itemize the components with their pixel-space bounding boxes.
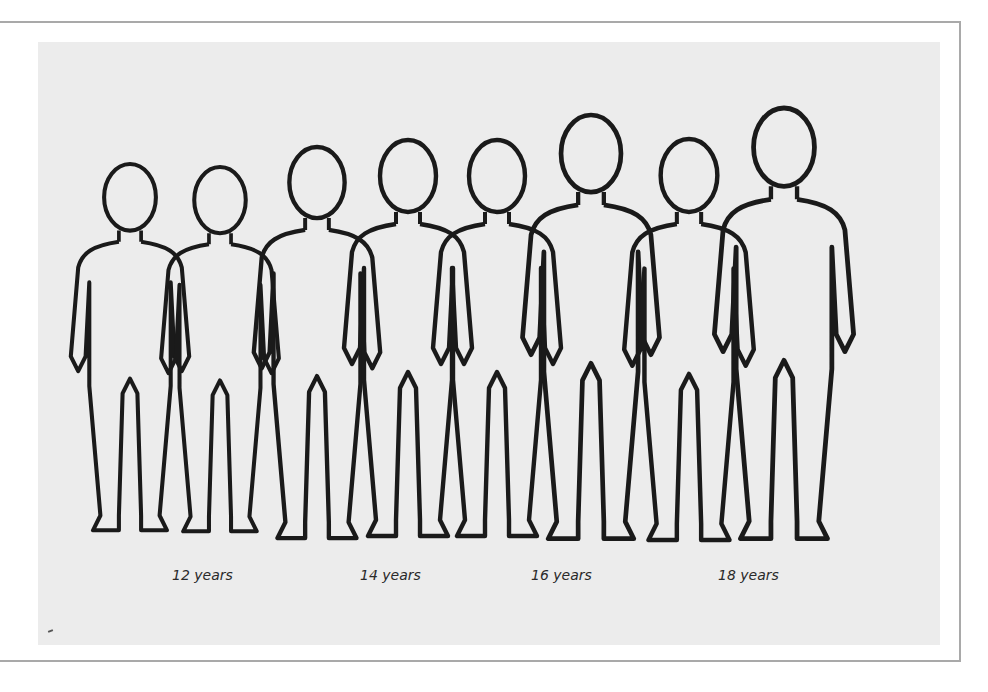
figure-12-right: [161, 167, 279, 531]
figure-16-right: [523, 115, 660, 539]
age-label-16: 16 years: [531, 567, 592, 583]
age-label-14: 14 years: [360, 567, 421, 583]
age-label-12: 12 years: [172, 567, 233, 583]
frame-right-rule: [959, 21, 961, 662]
figure-silhouettes: [38, 42, 940, 645]
figure-12-left: [71, 164, 189, 530]
frame-bottom-rule: [0, 660, 961, 662]
age-label-18: 18 years: [718, 567, 779, 583]
illustration-panel: 12 years 14 years 16 years 18 years: [38, 42, 940, 645]
frame-top-rule: [0, 21, 961, 23]
figure-18-right: [714, 108, 853, 539]
